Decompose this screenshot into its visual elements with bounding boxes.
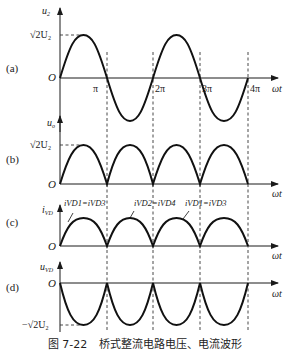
leader-line-3 — [183, 211, 189, 219]
y-label-a: u2 — [42, 5, 50, 17]
tick-2pi: 2π — [155, 83, 165, 94]
origin-label-c: O — [48, 240, 56, 252]
y-label-c: iVD — [42, 204, 53, 216]
annotation-ivd1-ivd3-second: iVD1=iVD3 — [185, 198, 227, 208]
diode-voltage-waveform — [60, 283, 248, 325]
peak-label-a: √2U₂ — [30, 29, 51, 40]
panel-b: uo √2U₂ (b) O ωt — [6, 116, 282, 199]
y-label-d: uVD — [40, 261, 54, 273]
panel-a: u2 √2U₂ (a) O π 2π 3π 4π ωt — [6, 5, 282, 132]
tick-pi: π — [93, 83, 98, 94]
x-label-a: ωt — [272, 83, 282, 94]
guide-lines — [107, 52, 248, 332]
tick-4pi: 4π — [250, 83, 260, 94]
origin-label-b: O — [48, 178, 56, 190]
caption-number: 图 7-22 — [48, 338, 87, 351]
rectified-voltage-waveform — [60, 145, 248, 184]
panel-tag-d: (d) — [6, 281, 19, 294]
panel-tag-b: (b) — [6, 153, 19, 166]
x-label-b: ωt — [272, 188, 282, 199]
y-label-b: uo — [47, 117, 55, 129]
panel-c: iVD iVD1=iVD3 iVD2=iVD4 iVD1=iVD3 (c) O … — [6, 198, 282, 261]
x-label-d: ωt — [272, 288, 282, 299]
leader-line-1 — [68, 213, 73, 222]
annotation-ivd1-ivd3-first: iVD1=iVD3 — [64, 198, 106, 208]
leader-line-2 — [130, 211, 134, 218]
peak-label-b: √2U₂ — [30, 139, 51, 150]
figure-caption: 图 7-22桥式整流电路电压、电流波形 — [0, 335, 290, 351]
caption-title: 桥式整流电路电压、电流波形 — [99, 338, 242, 351]
panel-tag-a: (a) — [6, 62, 19, 75]
diode-current-waveform — [60, 218, 248, 246]
tick-3pi: 3π — [202, 83, 212, 94]
origin-label-d: O — [48, 277, 56, 289]
panel-tag-c: (c) — [6, 216, 19, 229]
annotation-ivd2-ivd4: iVD2=iVD4 — [134, 198, 176, 208]
rectifier-waveform-diagram: u2 √2U₂ (a) O π 2π 3π 4π ωt uo √2U₂ (b) … — [0, 0, 290, 353]
trough-label-d: −√2U₂ — [22, 319, 49, 330]
x-label-c: ωt — [272, 250, 282, 261]
origin-label-a: O — [48, 71, 56, 83]
panel-d: uVD −√2U₂ (d) O ωt — [6, 261, 282, 332]
